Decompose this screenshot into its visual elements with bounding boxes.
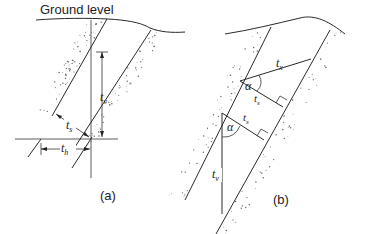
stipple-dot [215,125,216,126]
caption-a: (a) [100,188,116,203]
stipple-dot [68,61,70,63]
stipple-dot [309,77,310,78]
stipple-dot [65,78,66,79]
stipple-dot [211,141,212,142]
stipple-dot [89,135,90,136]
stipple-dot [65,84,66,85]
stipple-dot [127,67,128,68]
stipple-dot [238,86,239,87]
stipple-dot [98,135,100,137]
stipple-dot [55,87,56,88]
bed-top-boundary-a [52,19,107,116]
stipple-dot [69,70,70,71]
stipple-dot [74,61,76,63]
th-arrow-left-a [41,147,47,151]
stipple-dot [93,32,94,33]
caption-b: (b) [273,192,289,207]
stipple-dot [67,82,68,83]
stipple-dot [149,41,150,42]
stipple-dot [230,96,231,97]
ground-surface-line [36,17,345,34]
stipple-dot [241,208,242,209]
stipple-dot [85,37,86,38]
right-angle-lower-b [257,129,268,136]
stipple-dot [218,116,219,117]
stipple-dot [255,181,257,183]
stipple-dot [70,69,71,70]
stipple-dot [230,74,232,76]
stipple-dot [79,63,80,64]
stipple-dot [300,88,301,89]
stipple-dot [253,28,254,29]
tv-arrow-up-a [100,52,104,58]
stipple-dot [40,109,41,110]
stipple-dot [293,114,294,115]
stipple-dot [140,61,141,62]
stipple-dot [111,101,112,102]
stipple-dot [126,86,127,87]
stipple-dot [275,134,277,136]
stipple-dot [241,76,242,77]
stipple-dot [257,44,258,45]
ts-arrow-a2 [56,114,62,119]
stipple-dot [86,24,87,25]
stipple-dot [90,147,91,148]
stipple-dot [77,46,79,48]
stipple-dot [320,58,321,59]
stipple-dot [232,67,233,68]
stipple-dot [232,81,233,82]
stipple-dot [160,30,161,31]
stipple-dot [253,47,255,49]
stipple-dot [182,192,183,193]
stipple-dot [58,72,59,73]
alpha-upper-label-b: α [245,79,252,93]
stipple-dot [64,64,65,65]
stipple-dot [119,85,120,86]
stipple-dot [203,152,204,153]
stipple-dot [283,115,285,117]
th-arrow-right-a [84,147,90,151]
alpha-lower-label-b: α [227,120,234,134]
stipple-dot [198,139,199,140]
stipple-dot [185,172,186,173]
stipple-dot [115,93,116,94]
stipple-dot [108,102,109,103]
stipple-dot [87,144,88,145]
stipple-dot [290,127,292,129]
short-bed-trace-a1 [28,139,41,157]
stipple-dot [138,76,140,78]
stipple-dot [152,42,153,43]
stipple-dot [74,72,75,73]
stipple-dot [263,154,264,155]
stipple-dot [171,193,172,194]
stipple-dot [225,233,226,234]
stipple-dot [76,65,77,66]
stipple-dot [73,48,74,49]
stipple-dot [86,40,87,41]
stipple-dot [235,201,237,203]
stipple-dot [60,84,61,85]
stipple-dot [109,104,111,106]
stipple-dot [139,51,141,53]
stipple-dot [111,103,113,105]
bed-bottom-boundary-a [73,30,151,150]
stipple-dot [86,45,87,46]
stipple-dot [125,78,126,79]
stipple-dot [154,35,156,37]
angle-arc-upper-b [257,75,261,91]
stipple-dot [130,82,131,83]
ts-lower-label-b: ts [243,111,249,126]
stipple-dot [136,69,137,70]
stipple-dot [308,89,309,90]
stipple-dot [90,141,91,142]
stipple-dot [65,73,67,75]
stipple-dot [84,35,85,36]
stipple-dot [62,72,63,73]
stipple-dot [142,59,143,60]
stipple-dot [126,80,127,81]
stipple-dot [95,33,96,34]
stipple-dot [315,78,316,79]
stipple-dot [153,46,155,48]
stipple-dot [152,43,153,44]
stipple-dot [193,149,194,150]
